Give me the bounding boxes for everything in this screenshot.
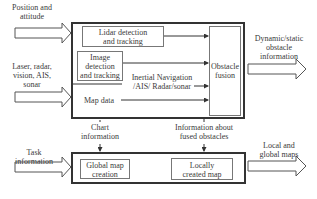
label-line: information xyxy=(246,52,312,61)
label-line: vision, AIS, xyxy=(2,71,62,80)
inertial-navigation-label: Inertial Navigation /AIS/ Radar/sonar xyxy=(127,73,197,91)
image-detection-box: Image detection and tracking xyxy=(77,51,123,81)
label-line: Position and xyxy=(2,3,62,12)
global-map-creation-box: Global map creation xyxy=(80,159,130,179)
obstacle-fusion-box: Obstacle fusion xyxy=(209,26,241,116)
label-line: detection xyxy=(78,62,122,71)
fused-obstacles-label: Information about fused obstacles xyxy=(168,123,240,141)
position-attitude-label: Position and attitude xyxy=(2,3,62,21)
task-information-label: Task information xyxy=(6,148,62,166)
label-line: fusion xyxy=(210,71,240,80)
label-line: and tracking xyxy=(83,37,163,46)
label-line: created map xyxy=(172,170,232,179)
label-line: /AIS/ Radar/sonar xyxy=(127,82,197,91)
locally-created-map-box: Locally created map xyxy=(171,158,233,180)
sensors-label: Laser, radar, vision, AIS, sonar xyxy=(2,62,62,89)
chart-information-label: Chart information xyxy=(72,123,128,141)
label-line: Information about xyxy=(168,123,240,132)
label-line: Lidar detection xyxy=(83,28,163,37)
label-line: Obstacle xyxy=(210,62,240,71)
label-line: Inertial Navigation xyxy=(127,73,197,82)
label-line: and tracking xyxy=(78,71,122,80)
label-line: fused obstacles xyxy=(168,132,240,141)
label-line: information xyxy=(6,157,62,166)
label-line: Dynamic/static xyxy=(246,34,312,43)
local-global-maps-label: Local and global maps xyxy=(252,141,306,159)
label-line: Laser, radar, xyxy=(2,62,62,71)
lidar-detection-box: Lidar detection and tracking xyxy=(82,26,164,47)
label-line: Image xyxy=(78,53,122,62)
label-line: Local and xyxy=(252,141,306,150)
label-line: Locally xyxy=(172,161,232,170)
map-data-label: Map data xyxy=(84,96,114,105)
label-line: attitude xyxy=(2,12,62,21)
label-line: global maps xyxy=(252,150,306,159)
label-line: sonar xyxy=(2,80,62,89)
label-line: creation xyxy=(81,170,129,179)
label-line: obstacle xyxy=(246,43,312,52)
label-line: Task xyxy=(6,148,62,157)
label-line: Global map xyxy=(81,161,129,170)
label-line: Chart xyxy=(72,123,128,132)
label-line: information xyxy=(72,132,128,141)
dynamic-static-obstacle-label: Dynamic/static obstacle information xyxy=(246,34,312,61)
